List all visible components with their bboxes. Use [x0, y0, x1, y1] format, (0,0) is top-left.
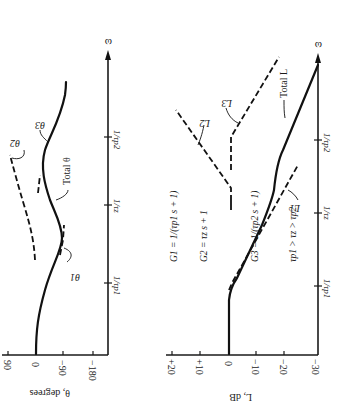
theta2-curve [10, 155, 35, 260]
theta3-curve [38, 175, 40, 193]
mag-ylabel: L, dB [229, 392, 252, 403]
theta1-leader [64, 248, 71, 262]
axis-arrow-icon [105, 50, 111, 60]
phase-ytick: 90 [2, 360, 13, 370]
eq-g3: G3 = 1/(τp2 s + 1) [250, 191, 261, 262]
mag-ytick: −20 [278, 359, 289, 375]
phase-ylabel: θ, degrees [30, 388, 70, 399]
phase-ytick: 0 [30, 362, 41, 367]
phase-xtick-tz: 1/τz [112, 199, 122, 213]
total-L-label: Total L [278, 69, 289, 98]
eq-g2: G2 = τz s + 1 [199, 210, 209, 262]
theta3-label: θ3 [35, 120, 45, 131]
L3-label: L3 [221, 98, 233, 109]
total-theta-label: Total θ [61, 157, 72, 185]
L2-label: L2 [199, 118, 211, 129]
mag-xtick-tp1: 1/τp1 [322, 279, 332, 298]
magnitude-plot: ω +20 +10 0 −10 −20 −30 L, dB 1/τp1 1/τz… [166, 40, 332, 403]
mag-ytick: +10 [194, 359, 205, 375]
theta2-label: θ2 [10, 138, 20, 149]
mag-ytick: +20 [166, 359, 177, 375]
phase-xtick-tp1: 1/τp1 [112, 276, 122, 295]
omega-label: ω [105, 37, 112, 49]
axis-arrow-icon [315, 53, 321, 63]
theta1-label: θ1 [70, 272, 80, 283]
phase-ytick: −180 [87, 360, 98, 381]
eq-g1: G1 = 1/(τp1 s + 1) [169, 191, 180, 262]
mag-ytick: 0 [223, 361, 234, 366]
mag-ytick: −10 [250, 359, 261, 375]
mag-xtick-tp2: 1/τp2 [322, 133, 332, 153]
bode-figure: ω 90 0 −90 −180 θ, degrees 1/τp1 1/τz 1/… [0, 0, 343, 407]
omega-label: ω [315, 40, 322, 52]
eq-condition: τp1 > τz > τp2 [288, 207, 298, 262]
phase-xtick-tp2: 1/τp2 [112, 130, 122, 150]
L3-curve [231, 57, 279, 170]
mag-xtick-tz: 1/τz [322, 206, 332, 220]
mag-ytick: −30 [310, 359, 321, 375]
phase-plot: ω 90 0 −90 −180 θ, degrees 1/τp1 1/τz 1/… [2, 37, 122, 399]
phase-ytick: −90 [57, 360, 68, 376]
